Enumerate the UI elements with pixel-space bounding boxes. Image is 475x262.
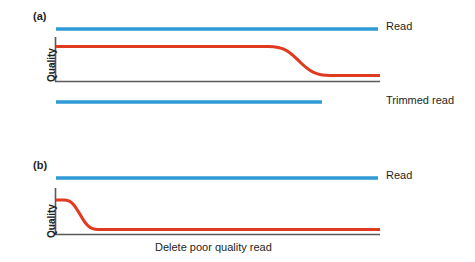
quality-trimming-figure xyxy=(0,0,475,262)
panel-a-label: (a) xyxy=(33,10,46,22)
panel-a-trimmed-read-label: Trimmed read xyxy=(386,94,454,106)
panel-a-read-label: Read xyxy=(386,20,412,32)
panel-b-caption: Delete poor quality read xyxy=(155,241,272,253)
panel-a-y-axis-title: Quality xyxy=(46,48,57,82)
figure-background xyxy=(0,0,475,262)
panel-b-read-label: Read xyxy=(386,169,412,181)
panel-b-y-axis-title: Quality xyxy=(46,204,57,238)
panel-b-label: (b) xyxy=(33,159,47,171)
